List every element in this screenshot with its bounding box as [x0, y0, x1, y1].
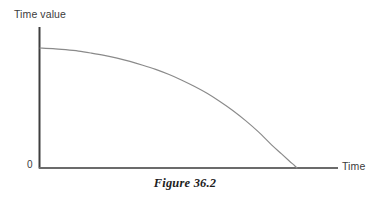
- x-axis-label: Time: [342, 160, 365, 172]
- origin-tick-label: 0: [27, 159, 33, 171]
- figure-container: Time value Time 0 Figure 36.2: [0, 0, 379, 200]
- plot-area: [0, 0, 379, 200]
- figure-caption: Figure 36.2: [0, 176, 370, 191]
- y-axis-label: Time value: [14, 8, 66, 20]
- time-decay-curve: [40, 48, 297, 168]
